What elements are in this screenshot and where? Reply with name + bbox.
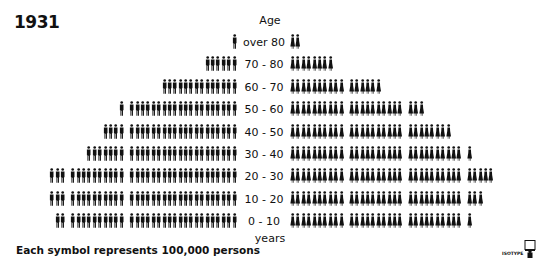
men-symbol-group (129, 167, 183, 184)
men-symbol-group (70, 167, 124, 184)
man-icon (232, 123, 237, 140)
woman-icon (397, 190, 402, 207)
men-symbol-group (183, 190, 237, 207)
women-symbol-group (290, 145, 344, 162)
man-icon (119, 212, 124, 229)
men-symbol-group (119, 100, 124, 117)
woman-icon (467, 212, 472, 229)
women-symbol-group (467, 167, 494, 184)
legend-note: Each symbol represents 100,000 persons (16, 244, 260, 256)
women-bar (290, 78, 386, 95)
woman-icon (339, 190, 344, 207)
man-icon (60, 190, 65, 207)
men-bar (44, 190, 237, 207)
chart-title: 1931 (14, 12, 59, 32)
men-symbol-group (183, 145, 237, 162)
women-symbol-group (349, 100, 403, 117)
woman-icon (397, 212, 402, 229)
men-bar (98, 123, 237, 140)
woman-icon (328, 55, 333, 72)
men-symbol-group (129, 212, 183, 229)
age-row: 40 - 50 (0, 120, 550, 142)
man-icon (232, 33, 237, 50)
age-row: 70 - 80 (0, 52, 550, 74)
age-label: 60 - 70 (240, 81, 288, 94)
men-bar (232, 33, 237, 50)
woman-icon (446, 123, 451, 140)
man-icon (119, 145, 124, 162)
women-symbol-group (467, 190, 483, 207)
men-symbol-group (183, 167, 237, 184)
woman-icon (376, 78, 381, 95)
women-symbol-group (349, 123, 403, 140)
man-icon (232, 167, 237, 184)
isotype-logo: ISOTYPE (502, 240, 536, 258)
men-symbol-group (232, 33, 237, 50)
men-symbol-group (86, 145, 124, 162)
woman-icon (456, 145, 461, 162)
men-bar (205, 55, 237, 72)
men-bar (114, 100, 237, 117)
men-symbol-group (129, 123, 183, 140)
man-icon (232, 212, 237, 229)
men-symbol-group (103, 123, 125, 140)
man-icon (232, 190, 237, 207)
women-symbol-group (408, 145, 462, 162)
age-row: 0 - 10 (0, 209, 550, 231)
man-icon (232, 55, 237, 72)
men-symbol-group (129, 100, 183, 117)
women-symbol-group (290, 100, 344, 117)
man-icon (232, 78, 237, 95)
man-icon (119, 190, 124, 207)
woman-icon (397, 100, 402, 117)
age-label: 50 - 60 (240, 103, 288, 116)
women-bar (290, 123, 456, 140)
woman-icon (339, 100, 344, 117)
man-icon (232, 100, 237, 117)
women-symbol-group (408, 167, 462, 184)
men-symbol-group (183, 78, 237, 95)
woman-icon (456, 212, 461, 229)
women-symbol-group (467, 212, 472, 229)
women-symbol-group (408, 212, 462, 229)
age-label: over 80 (240, 36, 288, 49)
women-symbol-group (290, 190, 344, 207)
age-axis-header: Age (250, 14, 290, 27)
woman-icon (339, 145, 344, 162)
woman-icon (339, 212, 344, 229)
age-label: 10 - 20 (240, 193, 288, 206)
men-bar (50, 212, 238, 229)
age-label: 20 - 30 (240, 170, 288, 183)
sign-holder-icon (524, 240, 536, 258)
age-row: 20 - 30 (0, 164, 550, 186)
man-icon (232, 145, 237, 162)
men-symbol-group (49, 167, 65, 184)
women-symbol-group (349, 190, 403, 207)
men-symbol-group (129, 190, 183, 207)
woman-icon (456, 167, 461, 184)
man-icon (119, 100, 124, 117)
woman-icon (488, 167, 493, 184)
age-row: over 80 (0, 30, 550, 52)
age-label: 70 - 80 (240, 58, 288, 71)
men-symbol-group (70, 212, 124, 229)
women-symbol-group (290, 78, 344, 95)
men-bar (81, 145, 237, 162)
women-bar (290, 33, 306, 50)
woman-icon (339, 123, 344, 140)
age-label: 30 - 40 (240, 148, 288, 161)
age-row: 10 - 20 (0, 187, 550, 209)
women-bar (290, 190, 488, 207)
women-symbol-group (349, 78, 381, 95)
women-bar (290, 212, 477, 229)
men-symbol-group (162, 78, 184, 95)
women-symbol-group (467, 145, 472, 162)
man-icon (119, 123, 124, 140)
women-bar (290, 55, 338, 72)
man-icon (119, 167, 124, 184)
age-row: 30 - 40 (0, 142, 550, 164)
men-symbol-group (129, 145, 183, 162)
woman-icon (339, 167, 344, 184)
women-symbol-group (408, 100, 424, 117)
women-bar (290, 145, 477, 162)
